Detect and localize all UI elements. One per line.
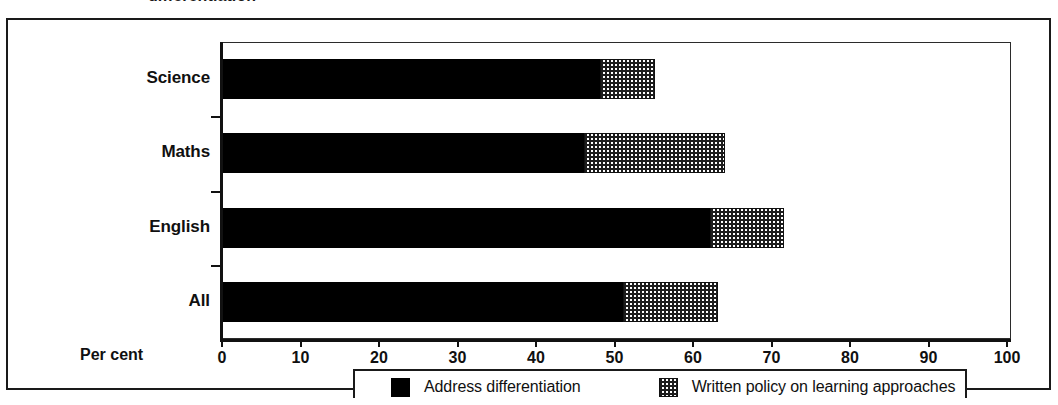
category-label: English xyxy=(149,217,210,237)
x-axis-tick xyxy=(849,339,851,347)
caption-strip: differentiation xyxy=(0,0,1058,17)
plot-area: 0102030405060708090100 xyxy=(220,42,1011,339)
x-axis-tick xyxy=(1006,339,1008,347)
value-axis-line xyxy=(220,339,1011,342)
x-axis-tick-label: 60 xyxy=(684,349,702,367)
x-axis-tick-label: 10 xyxy=(292,349,310,367)
bar-segment-written-policy xyxy=(600,59,655,99)
x-axis-tick xyxy=(771,339,773,347)
legend-item-written-policy: Written policy on learning approaches xyxy=(659,378,956,397)
x-axis-tick xyxy=(300,339,302,347)
legend-swatch-solid-icon xyxy=(391,378,410,397)
x-axis-tick xyxy=(614,339,616,347)
bar-segment-address-differentiation xyxy=(223,133,584,173)
x-axis-tick xyxy=(378,339,380,347)
legend-label: Address differentiation xyxy=(424,378,581,396)
x-axis-tick-label: 100 xyxy=(994,349,1021,367)
x-axis-tick xyxy=(928,339,930,347)
bar-segment-written-policy xyxy=(623,282,717,322)
percent-axis-label: Per cent xyxy=(80,346,143,364)
category-label: Maths xyxy=(161,142,210,162)
x-axis-tick-label: 70 xyxy=(763,349,781,367)
legend-item-address-differentiation: Address differentiation xyxy=(391,378,581,397)
bar-segment-written-policy xyxy=(584,133,725,173)
page-edge xyxy=(0,398,1058,405)
caption-text: differentiation xyxy=(148,0,256,5)
category-label-column: ScienceMathsEnglishAll xyxy=(38,42,210,339)
x-axis-tick-label: 0 xyxy=(218,349,227,367)
x-axis-tick xyxy=(457,339,459,347)
category-label: All xyxy=(189,291,210,311)
x-axis-tick-label: 20 xyxy=(370,349,388,367)
legend-swatch-hatch-icon xyxy=(659,378,678,397)
category-tick xyxy=(211,265,223,267)
bar-segment-address-differentiation xyxy=(223,208,710,248)
bar-segment-written-policy xyxy=(710,208,785,248)
x-axis-tick xyxy=(221,339,223,347)
x-axis-tick-label: 50 xyxy=(606,349,624,367)
x-axis-tick xyxy=(535,339,537,347)
x-axis-tick-label: 30 xyxy=(449,349,467,367)
bar-segment-address-differentiation xyxy=(223,282,623,322)
x-axis-tick-label: 40 xyxy=(527,349,545,367)
category-tick xyxy=(211,116,223,118)
x-axis-tick-label: 80 xyxy=(841,349,859,367)
figure-frame: ScienceMathsEnglishAll 01020304050607080… xyxy=(6,18,1051,390)
category-label: Science xyxy=(146,68,210,88)
category-tick xyxy=(211,191,223,193)
legend-label: Written policy on learning approaches xyxy=(692,378,956,396)
bar-segment-address-differentiation xyxy=(223,59,600,99)
x-axis-tick xyxy=(692,339,694,347)
x-axis-tick-label: 90 xyxy=(920,349,938,367)
